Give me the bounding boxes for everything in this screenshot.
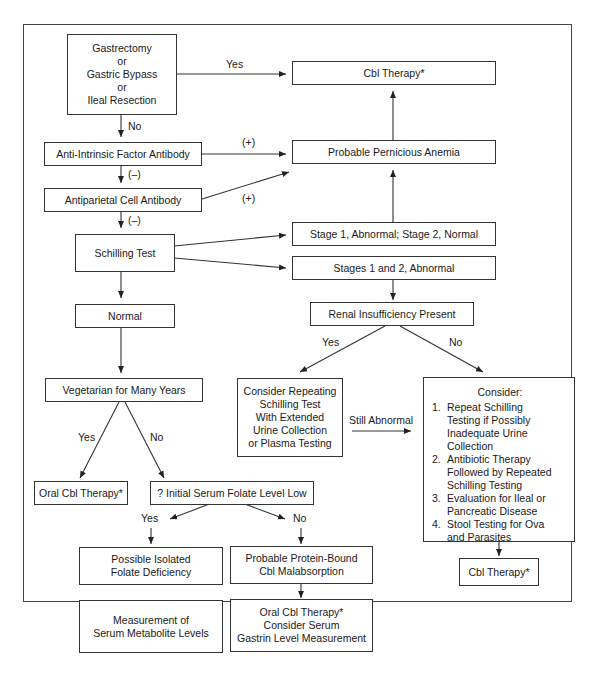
list-number: 2.	[432, 453, 447, 492]
node-text: With Extended	[256, 411, 324, 424]
node-text: Folate Deficiency	[111, 566, 192, 579]
node-serum-metabolite-levels: Measurement of Serum Metabolite Levels	[79, 600, 223, 653]
edge-label-positive: (+)	[242, 192, 255, 204]
list-text: Evaluation for Ileal or	[447, 492, 546, 505]
node-cbl-therapy-bottom: Cbl Therapy*	[459, 558, 539, 586]
node-text: Measurement of	[113, 614, 189, 627]
node-text: Anti-Intrinsic Factor Antibody	[56, 148, 190, 161]
node-gastrectomy: Gastrectomy or Gastric Bypass or Ileal R…	[67, 34, 177, 115]
node-text: Ileal Resection	[88, 94, 157, 107]
list-number: 4.	[432, 518, 447, 544]
list-number: 3.	[432, 492, 447, 518]
node-text: Cbl Therapy*	[468, 566, 529, 579]
node-normal: Normal	[75, 304, 175, 328]
node-oral-cbl-gastrin: Oral Cbl Therapy* Consider Serum Gastrin…	[230, 599, 373, 652]
node-stages12-abnormal: Stages 1 and 2, Abnormal	[292, 256, 496, 280]
list-text: Testing if Possibly	[447, 414, 568, 427]
list-text: Stool Testing for Ova	[447, 518, 544, 531]
list-text: and Parasites	[447, 531, 544, 544]
edge-label-negative: (–)	[128, 214, 141, 226]
edge-label-no: No	[150, 431, 163, 443]
node-text: Urine Collection	[253, 424, 327, 437]
node-text: Stage 1, Abnormal; Stage 2, Normal	[310, 228, 478, 241]
node-text: Serum Metabolite Levels	[93, 627, 209, 640]
node-text: Gastric Bypass	[87, 68, 158, 81]
list-item: 1. Repeat Schilling Testing if Possibly …	[432, 401, 568, 453]
node-protein-bound-malabsorption: Probable Protein-Bound Cbl Malabsorption	[230, 546, 373, 584]
node-text: Schilling Test	[94, 247, 155, 260]
node-consider-list: Consider: 1. Repeat Schilling Testing if…	[423, 377, 575, 542]
node-probable-pernicious-anemia: Probable Pernicious Anemia	[292, 140, 496, 164]
list-text: Schilling Testing	[447, 479, 551, 492]
node-anti-intrinsic-factor: Anti-Intrinsic Factor Antibody	[44, 142, 202, 166]
node-text: Cbl Malabsorption	[259, 565, 344, 578]
node-text: Cbl Therapy*	[363, 67, 424, 80]
edge-label-yes: Yes	[141, 512, 158, 524]
node-text: or	[117, 55, 126, 68]
node-antiparietal-cell-antibody: Antiparietal Cell Antibody	[44, 188, 202, 212]
edge-label-no: No	[128, 120, 141, 132]
node-text: Consider Repeating	[244, 385, 337, 398]
node-stage1-abnormal: Stage 1, Abnormal; Stage 2, Normal	[292, 222, 496, 246]
list-text: Repeat Schilling	[447, 401, 568, 414]
list-text: Pancreatic Disease	[447, 505, 546, 518]
node-text: Renal Insufficiency Present	[328, 308, 455, 321]
node-renal-insufficiency: Renal Insufficiency Present	[310, 302, 474, 326]
list-number: 1.	[432, 401, 447, 453]
node-text: Consider Serum	[264, 619, 340, 632]
list-item: 2. Antibiotic Therapy Followed by Repeat…	[432, 453, 551, 492]
node-text: or Plasma Testing	[248, 437, 331, 450]
node-text: Oral Cbl Therapy*	[39, 487, 123, 500]
node-text: Gastrin Level Measurement	[237, 632, 366, 645]
node-consider-repeating-schilling: Consider Repeating Schilling Test With E…	[237, 378, 343, 457]
node-text: Vegetarian for Many Years	[62, 384, 185, 397]
node-text: ? Initial Serum Folate Level Low	[157, 487, 306, 500]
node-schilling-test: Schilling Test	[75, 234, 175, 272]
node-cbl-therapy-top: Cbl Therapy*	[292, 61, 496, 85]
edge-label-no: No	[449, 336, 462, 348]
node-oral-cbl-therapy: Oral Cbl Therapy*	[34, 481, 128, 505]
list-item: 3. Evaluation for Ileal or Pancreatic Di…	[432, 492, 546, 518]
list-item: 4. Stool Testing for Ova and Parasites	[432, 518, 544, 544]
node-text: Oral Cbl Therapy*	[260, 606, 344, 619]
list-text: Inadequate Urine Collection	[447, 427, 568, 453]
edge-label-no: No	[293, 512, 306, 524]
edge-label-yes: Yes	[78, 431, 95, 443]
list-text: Followed by Repeated	[447, 466, 551, 479]
edge-label-yes: Yes	[322, 336, 339, 348]
node-text: or	[117, 81, 126, 94]
node-text: Probable Pernicious Anemia	[328, 146, 460, 159]
edge-label-still-abnormal: Still Abnormal	[349, 414, 413, 426]
list-heading: Consider:	[478, 386, 523, 399]
node-text: Schilling Test	[259, 398, 320, 411]
node-text: Possible Isolated	[111, 553, 190, 566]
node-text: Probable Protein-Bound	[245, 552, 357, 565]
edge-label-positive: (+)	[242, 136, 255, 148]
node-text: Stages 1 and 2, Abnormal	[334, 262, 455, 275]
edge-label-negative: (–)	[128, 168, 141, 180]
node-text: Antiparietal Cell Antibody	[65, 194, 182, 207]
edge-label-yes: Yes	[226, 58, 243, 70]
node-vegetarian: Vegetarian for Many Years	[45, 378, 203, 402]
node-folate-level-low: ? Initial Serum Folate Level Low	[150, 481, 314, 505]
list-text: Antibiotic Therapy	[447, 453, 551, 466]
node-text: Gastrectomy	[92, 42, 152, 55]
node-isolated-folate-deficiency: Possible Isolated Folate Deficiency	[79, 547, 223, 585]
node-text: Normal	[108, 310, 142, 323]
